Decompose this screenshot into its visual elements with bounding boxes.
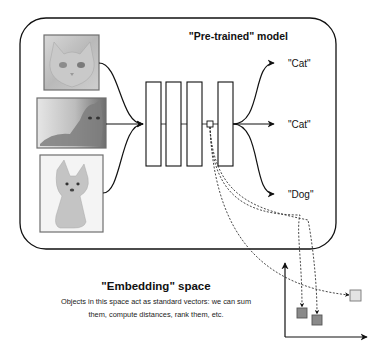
dog-embedding-point (350, 290, 361, 301)
embedding-description-line2: them, compute distances, rank them, etc. (88, 310, 223, 319)
layer-2 (166, 82, 181, 166)
model-title: "Pre-trained" model (189, 30, 288, 42)
embedding-node (207, 121, 213, 127)
layer-1 (146, 82, 161, 166)
layer-3 (187, 82, 202, 166)
output-connectors (233, 63, 274, 194)
output-label-1: "Cat" (288, 58, 311, 69)
layer-4 (218, 82, 233, 166)
output-label-3: "Dog" (288, 189, 314, 200)
embedding-description-line1: Objects in this space act as standard ve… (61, 297, 251, 306)
cat-1-embedding-point (297, 308, 307, 318)
cat-2-embedding-point (312, 315, 322, 325)
output-label-2: "Cat" (288, 119, 311, 130)
embedding-title: "Embedding" space (101, 280, 210, 292)
dog-image (40, 155, 103, 232)
cat-image-1 (44, 35, 99, 90)
diagram-canvas: "Pre-trained" model (0, 0, 385, 360)
cat-image-2 (37, 98, 106, 148)
network-layers (146, 82, 233, 166)
